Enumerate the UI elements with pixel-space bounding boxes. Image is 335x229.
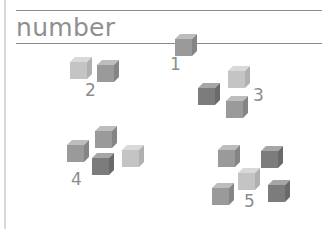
cube-icon <box>198 83 220 105</box>
cube-icon <box>261 146 283 168</box>
group-label: 1 <box>170 55 181 73</box>
cube-icon <box>95 126 117 148</box>
cube-icon <box>122 145 144 167</box>
cube-icon <box>268 180 290 202</box>
group-label: 4 <box>71 170 82 188</box>
page-title: number <box>16 14 115 42</box>
top-rule <box>16 10 322 11</box>
group-label: 3 <box>253 86 264 104</box>
cube-icon <box>97 60 119 82</box>
title-underline <box>16 43 322 44</box>
left-border <box>4 0 6 229</box>
cube-icon <box>67 140 89 162</box>
group-label: 2 <box>85 81 96 99</box>
cube-icon <box>212 183 234 205</box>
cube-icon <box>226 96 248 118</box>
group-label: 5 <box>244 192 255 210</box>
cube-icon <box>238 168 260 190</box>
cube-icon <box>92 153 114 175</box>
cube-icon <box>70 57 92 79</box>
cube-icon <box>228 66 250 88</box>
cube-icon <box>175 34 197 56</box>
cube-icon <box>218 145 240 167</box>
